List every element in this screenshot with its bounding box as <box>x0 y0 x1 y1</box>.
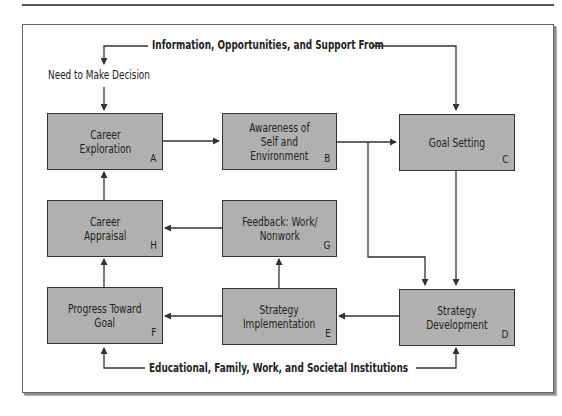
box-label: Career Exploration <box>79 128 131 156</box>
box-awareness-self-environment: Awareness of Self and Environment B <box>222 113 337 170</box>
box-label: Career Appraisal <box>84 215 127 243</box>
top-source-label: Information, Opportunities, and Support … <box>152 38 384 52</box>
box-letter: C <box>502 153 508 167</box>
box-label: Strategy Implementation <box>243 303 315 331</box>
box-letter: H <box>150 239 157 253</box>
need-to-make-decision-label: Need to Make Decision <box>48 68 150 82</box>
box-letter: F <box>152 326 157 340</box>
box-strategy-development: Strategy Development D <box>399 289 515 346</box>
box-letter: B <box>325 152 331 166</box>
box-letter: E <box>325 327 331 341</box>
box-label: Goal Setting <box>429 136 485 150</box>
box-letter: A <box>151 152 157 166</box>
box-strategy-implementation: Strategy Implementation E <box>222 288 337 345</box>
box-career-exploration: Career Exploration A <box>47 113 163 170</box>
box-label: Progress Toward Goal <box>68 302 141 330</box>
box-goal-setting: Goal Setting C <box>399 114 515 171</box>
box-label: Strategy Development <box>426 304 487 332</box>
box-career-appraisal: Career Appraisal H <box>47 200 163 257</box>
box-letter: G <box>324 239 331 253</box>
box-progress-toward-goal: Progress Toward Goal F <box>47 287 163 344</box>
box-label: Feedback: Work/ Nonwork <box>242 215 317 243</box>
box-label: Awareness of Self and Environment <box>249 121 310 163</box>
bottom-source-label: Educational, Family, Work, and Societal … <box>149 361 408 375</box>
box-letter: D <box>502 328 509 342</box>
box-feedback-work-nonwork: Feedback: Work/ Nonwork G <box>222 200 337 257</box>
